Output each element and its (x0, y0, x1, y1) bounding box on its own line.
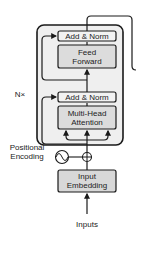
feed-forward: Feed Forward (66, 45, 108, 68)
add-norm-bottom: Add & Norm (58, 92, 116, 102)
inputs-label: Inputs (67, 220, 107, 229)
multi-head-attention: Multi-Head Attention (62, 106, 112, 129)
positional-encoding-label: Positional Encoding (2, 143, 52, 161)
add-norm-top: Add & Norm (58, 31, 116, 41)
repeat-label: N× (8, 90, 32, 99)
input-embedding: Input Embedding (60, 170, 114, 192)
